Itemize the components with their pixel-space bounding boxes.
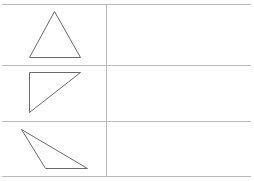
- triangle-table-diagram: [0, 0, 254, 181]
- right-triangle-shape: [30, 73, 81, 113]
- obtuse-triangle-shape: [22, 130, 88, 169]
- empty-answer-cell: [107, 66, 251, 121]
- acute-isosceles-triangle-shape: [30, 12, 81, 58]
- empty-answer-cell: [107, 5, 251, 65]
- empty-answer-cell: [107, 122, 251, 176]
- triangle-shapes: [22, 12, 88, 169]
- right-column-cells: [107, 5, 251, 176]
